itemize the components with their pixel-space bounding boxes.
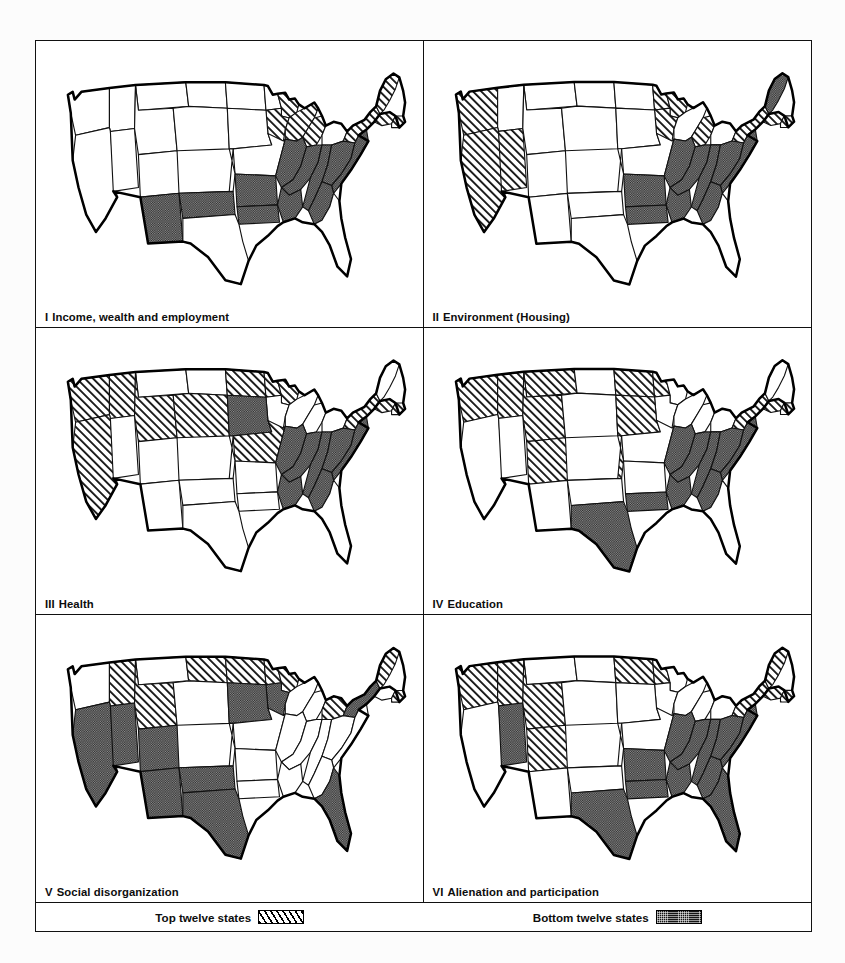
panel-number-4: IV	[433, 598, 444, 610]
us-map-svg-4	[424, 328, 812, 592]
us-map-svg-2	[424, 41, 812, 305]
legend-bottom-label: Bottom twelve states	[533, 911, 649, 924]
panel-title-2: Environment (Housing)	[443, 311, 570, 323]
us-map-svg-6	[424, 615, 812, 880]
panel-2: IIEnvironment (Housing)	[424, 41, 812, 328]
map-5	[36, 615, 423, 880]
legend-top-label: Top twelve states	[155, 911, 251, 924]
map-6	[424, 615, 812, 880]
panel-number-6: VI	[433, 886, 444, 898]
map-3	[36, 328, 423, 592]
panel-5: VSocial disorganization	[36, 615, 424, 902]
panel-title-5: Social disorganization	[57, 886, 179, 898]
panel-1: IIncome, wealth and employment	[36, 41, 424, 328]
stipple-swatch-icon	[656, 910, 702, 924]
hatch-swatch-icon	[258, 910, 304, 924]
panel-title-3: Health	[59, 598, 94, 610]
panel-title-4: Education	[447, 598, 503, 610]
map-1	[36, 41, 423, 305]
panel-number-5: V	[45, 886, 53, 898]
us-map-svg-1	[36, 41, 423, 305]
legend: Top twelve states Bottom twelve states	[36, 902, 811, 931]
panel-caption-4: IVEducation	[433, 598, 503, 610]
legend-top-twelve: Top twelve states	[36, 903, 424, 931]
figure-frame: IIncome, wealth and employment	[35, 40, 812, 932]
panel-caption-3: IIIHealth	[45, 598, 94, 610]
panel-caption-5: VSocial disorganization	[45, 886, 179, 898]
panel-title-1: Income, wealth and employment	[52, 311, 229, 323]
legend-bottom-twelve: Bottom twelve states	[424, 903, 812, 931]
map-2	[424, 41, 812, 305]
us-map-svg-3	[36, 328, 423, 592]
panel-3: IIIHealth	[36, 328, 424, 615]
panel-caption-6: VIAlienation and participation	[433, 886, 599, 898]
panel-caption-2: IIEnvironment (Housing)	[433, 311, 570, 323]
panel-number-1: I	[45, 311, 48, 323]
panel-6: VIAlienation and participation	[424, 615, 812, 902]
panel-number-2: II	[433, 311, 439, 323]
panel-caption-1: IIncome, wealth and employment	[45, 311, 229, 323]
panel-4: IVEducation	[424, 328, 812, 615]
panel-grid: IIncome, wealth and employment	[36, 41, 811, 902]
panel-title-6: Alienation and participation	[447, 886, 599, 898]
map-4	[424, 328, 812, 592]
figure-sheet: IIncome, wealth and employment	[0, 0, 845, 963]
us-map-svg-5	[36, 615, 423, 880]
panel-number-3: III	[45, 598, 55, 610]
